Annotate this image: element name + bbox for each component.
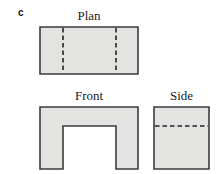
side-view-title: Side — [154, 88, 209, 103]
side-view-shape — [153, 106, 210, 170]
front-view-title: Front — [40, 88, 138, 103]
plan-view-shape — [39, 26, 139, 75]
figure-part-label: c — [18, 7, 24, 19]
plan-outline — [40, 27, 138, 74]
plan-view-title: Plan — [40, 8, 138, 23]
front-outline — [40, 107, 138, 169]
side-outline — [154, 107, 209, 169]
orthographic-projection-figure: c Plan Front Side — [0, 0, 220, 174]
front-view-shape — [39, 106, 139, 170]
